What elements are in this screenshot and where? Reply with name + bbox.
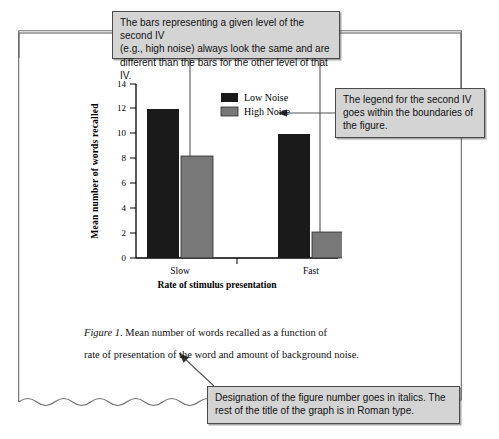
- page-top-cut-text: [10, 0, 310, 8]
- legend-swatch-high-noise: [221, 107, 238, 116]
- callout-legend-line-2: goes within the boundaries of: [343, 106, 478, 119]
- chart-legend: Low Noise High Noise: [221, 92, 290, 117]
- y-tick-label-0: 0: [122, 253, 127, 263]
- legend-label-high-noise: High Noise: [244, 106, 290, 117]
- y-tick-label-2: 2: [122, 228, 127, 238]
- bar-slow-low-noise: [147, 109, 179, 258]
- callout-top-line-1: The bars representing a given level of t…: [120, 16, 333, 42]
- chart-x-axis-label: Rate of stimulus presentation: [92, 280, 342, 290]
- figure-caption: Figure 1. Mean number of words recalled …: [84, 322, 414, 366]
- chart-plot-area: 0 2 4 6 8 10 12 14 Slow Fast Low Noise: [92, 76, 342, 276]
- callout-top-line-2: (e.g., high noise) always look the same …: [120, 42, 333, 55]
- caption-figure-label: Figure 1: [84, 327, 120, 338]
- y-tick-label-8: 8: [122, 153, 127, 163]
- y-tick-label-10: 10: [117, 128, 127, 138]
- callout-legend-line-3: the figure.: [343, 119, 478, 132]
- y-tick-label-6: 6: [122, 178, 127, 188]
- y-axis-ticks: [130, 84, 136, 258]
- legend-swatch-low-noise: [221, 93, 238, 102]
- caption-line-1: Figure 1. Mean number of words recalled …: [84, 322, 414, 344]
- caption-figure-rest: . Mean number of words recalled as a fun…: [120, 327, 327, 338]
- callout-caption-typography: Designation of the figure number goes in…: [207, 386, 460, 424]
- x-category-label-slow: Slow: [170, 266, 190, 276]
- x-category-label-fast: Fast: [303, 266, 319, 276]
- legend-label-low-noise: Low Noise: [244, 92, 289, 103]
- bar-fast-high-noise: [312, 232, 342, 258]
- callout-bottom-line-1: Designation of the figure number goes in…: [215, 391, 453, 404]
- bar-slow-high-noise: [181, 156, 213, 258]
- caption-line-2: rate of presentation of the word and amo…: [84, 344, 414, 366]
- callout-top-line-3: different than the bars for the other le…: [120, 56, 333, 82]
- y-tick-label-12: 12: [117, 103, 126, 113]
- chart-y-axis-label: Mean number of words recalled: [90, 76, 100, 266]
- callout-legend-placement: The legend for the second IV goes within…: [335, 88, 485, 138]
- y-tick-label-4: 4: [122, 203, 127, 213]
- figure-chart: Mean number of words recalled 0 2 4 6 8: [92, 76, 342, 298]
- callout-bars-consistency: The bars representing a given level of t…: [112, 11, 340, 59]
- callout-legend-line-1: The legend for the second IV: [343, 93, 478, 106]
- callout-bottom-line-2: rest of the title of the graph is in Rom…: [215, 404, 453, 417]
- bar-fast-low-noise: [278, 134, 310, 258]
- screenshot-root: Mean number of words recalled 0 2 4 6 8: [0, 0, 499, 439]
